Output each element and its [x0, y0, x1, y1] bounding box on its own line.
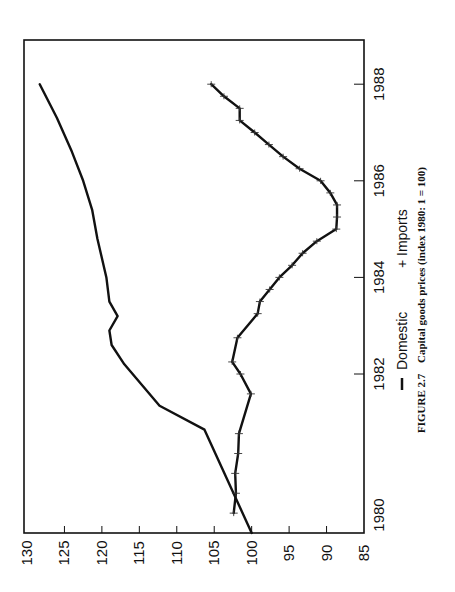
- plot-frame: [24, 40, 364, 533]
- x-tick-label-1988: 1988: [370, 68, 387, 101]
- legend: Domestic + Imports: [394, 209, 410, 390]
- data-point-imports-17: [333, 214, 341, 220]
- y-tick-label-95: 95: [280, 545, 297, 562]
- x-tick-label-1980: 1980: [370, 498, 387, 531]
- legend-domestic-label: Domestic: [394, 312, 410, 370]
- data-point-imports-18: [333, 202, 341, 208]
- series-line-imports: [211, 84, 337, 513]
- x-tick-label-1982: 1982: [370, 357, 387, 390]
- legend-imports-label: Imports: [394, 209, 410, 256]
- y-tick-label-110: 110: [168, 541, 185, 565]
- data-point-imports-0: [230, 510, 238, 516]
- y-tick-label-115: 115: [130, 541, 147, 565]
- y-tick-label-125: 125: [55, 540, 72, 565]
- y-tick-label-120: 120: [93, 540, 110, 565]
- caption-prefix: FIGURE 2.7: [415, 373, 427, 433]
- y-tick-label-90: 90: [318, 545, 335, 562]
- caption-text: Capital goods prices (index 1980: 1 = 10…: [415, 167, 428, 363]
- data-point-imports-2: [231, 470, 239, 476]
- data-point-imports-5: [247, 391, 255, 397]
- x-tick-label-1986: 1986: [370, 164, 387, 197]
- y-tick-label-85: 85: [355, 545, 372, 562]
- chart: 1301251201151101051009590851980198219841…: [0, 0, 455, 592]
- y-tick-label-105: 105: [205, 540, 222, 565]
- figure-caption: FIGURE 2.7 Capital goods prices (index 1…: [415, 167, 428, 433]
- data-point-imports-3: [234, 451, 242, 457]
- data-point-imports-4: [235, 431, 243, 437]
- axes: 1301251201151101051009590851980198219841…: [18, 68, 387, 566]
- svg-text:FIGURE 2.7 Capital goods: FIGURE 2.7 Capital goods prices (index 1…: [415, 167, 428, 433]
- y-tick-label-130: 130: [18, 540, 35, 565]
- legend-imports-symbol: +: [394, 260, 410, 268]
- series-line-domestic: [40, 84, 252, 533]
- series: [40, 81, 341, 533]
- y-tick-label-100: 100: [243, 540, 260, 565]
- x-tick-label-1984: 1984: [370, 261, 387, 294]
- plot-area: [24, 40, 364, 533]
